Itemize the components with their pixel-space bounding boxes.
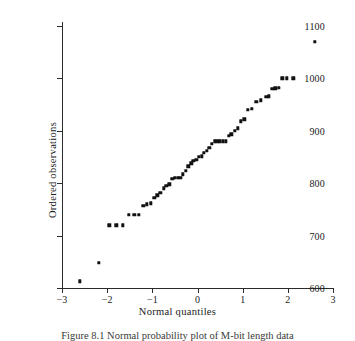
x-tick-mark xyxy=(288,288,289,293)
data-point xyxy=(181,173,184,176)
x-tick-label: −2 xyxy=(102,294,113,305)
data-point xyxy=(267,95,270,98)
y-tick-label: 1100 xyxy=(305,21,325,32)
y-tick-label: 600 xyxy=(309,283,325,294)
data-point xyxy=(78,279,81,282)
y-tick-mark xyxy=(57,236,63,237)
data-point xyxy=(168,183,171,186)
x-tick-label: 0 xyxy=(195,294,200,305)
x-tick-mark xyxy=(333,288,334,293)
data-point xyxy=(255,100,258,103)
data-point xyxy=(194,158,197,161)
data-point xyxy=(259,99,262,102)
y-tick-label: 800 xyxy=(309,178,325,189)
data-point xyxy=(152,196,155,199)
data-point xyxy=(205,149,208,152)
data-point xyxy=(156,194,159,197)
data-point xyxy=(230,133,233,136)
data-point xyxy=(313,40,316,43)
x-tick-label: 2 xyxy=(285,294,290,305)
x-tick-label: −1 xyxy=(147,294,158,305)
data-point xyxy=(159,191,162,194)
x-tick-label: 3 xyxy=(331,294,336,305)
data-point xyxy=(97,261,100,264)
data-point xyxy=(114,223,117,226)
data-point xyxy=(121,223,124,226)
data-point xyxy=(285,77,288,80)
data-point xyxy=(200,155,203,158)
y-tick-mark xyxy=(57,26,63,27)
data-point xyxy=(137,213,140,216)
y-axis-title: Ordered observations xyxy=(47,121,58,217)
data-point xyxy=(162,187,165,190)
data-point xyxy=(108,223,111,226)
data-point xyxy=(243,118,246,121)
x-tick-label: −3 xyxy=(57,294,68,305)
x-tick-mark xyxy=(62,288,63,293)
x-tick-mark xyxy=(243,288,244,293)
data-point xyxy=(187,165,190,168)
data-point xyxy=(127,213,130,216)
data-point xyxy=(250,107,253,110)
data-point xyxy=(184,169,187,172)
y-tick-mark xyxy=(57,183,63,184)
data-point xyxy=(210,142,213,145)
data-point xyxy=(277,86,280,89)
plot-area: 60070080090010001100 −3−2−10123 xyxy=(62,26,333,288)
data-point xyxy=(133,213,136,216)
y-tick-mark xyxy=(57,78,63,79)
y-tick-label: 900 xyxy=(309,125,325,136)
data-point xyxy=(236,126,239,129)
x-axis-title: Normal quantiles xyxy=(0,306,355,317)
data-point xyxy=(179,176,182,179)
data-point xyxy=(233,129,236,132)
x-tick-mark xyxy=(107,288,108,293)
figure-caption: Figure 8.1 Normal probability plot of M-… xyxy=(0,330,355,341)
data-point xyxy=(224,140,227,143)
x-tick-mark xyxy=(198,288,199,293)
data-point xyxy=(149,201,152,204)
data-point xyxy=(292,77,295,80)
y-tick-label: 1000 xyxy=(304,73,325,84)
data-point xyxy=(281,77,284,80)
y-tick-label: 700 xyxy=(309,230,325,241)
y-tick-mark xyxy=(57,131,63,132)
data-point xyxy=(189,162,192,165)
x-tick-mark xyxy=(152,288,153,293)
x-tick-label: 1 xyxy=(240,294,245,305)
data-point xyxy=(208,146,211,149)
